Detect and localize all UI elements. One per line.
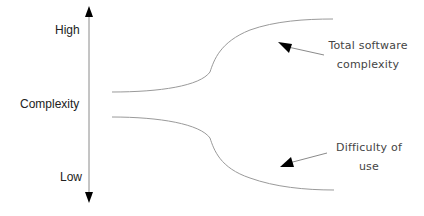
axis-low-label: Low (60, 170, 82, 184)
axis-up-arrow-icon (85, 6, 93, 17)
difficulty-of-use-curve (112, 117, 334, 190)
total-complexity-pointer-line (288, 47, 324, 55)
total-complexity-label-line1: Total software (320, 36, 416, 55)
difficulty-pointer-arrow-icon (280, 157, 294, 167)
total-complexity-label-line2: complexity (320, 55, 416, 74)
total-complexity-label: Total software complexity (320, 36, 416, 74)
difficulty-of-use-label: Difficulty of use (326, 138, 412, 176)
difficulty-label-line1: Difficulty of (326, 138, 412, 157)
axis-down-arrow-icon (85, 192, 93, 203)
total-complexity-curve (112, 19, 333, 92)
total-complexity-pointer-arrow-icon (278, 42, 292, 53)
difficulty-label-line2: use (326, 157, 412, 176)
axis-title: Complexity (20, 97, 79, 111)
axis-high-label: High (55, 23, 80, 37)
difficulty-pointer-line (289, 153, 327, 163)
